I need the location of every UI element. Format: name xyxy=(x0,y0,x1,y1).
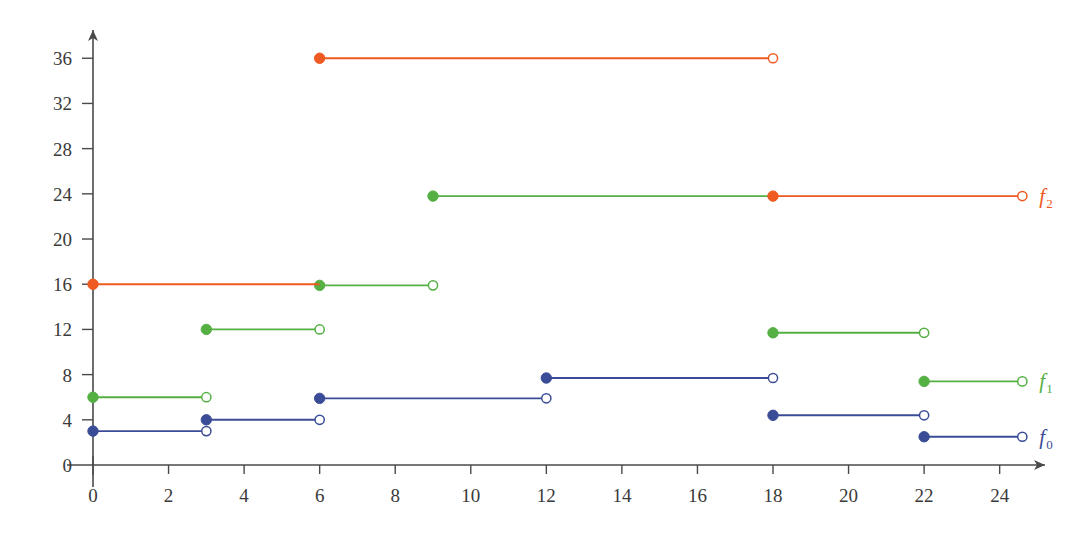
open-point-f_1-4[interactable] xyxy=(920,328,929,337)
y-tick-label-12: 12 xyxy=(53,319,72,340)
closed-point-f_1-5[interactable] xyxy=(919,376,929,386)
closed-point-f_0-0[interactable] xyxy=(88,426,98,436)
y-tick-label-0: 0 xyxy=(63,455,73,476)
series-sublabel-f_1: 1 xyxy=(1046,381,1053,396)
x-tick-label-8: 8 xyxy=(390,485,400,506)
series-label-f_0: f0 xyxy=(1039,425,1052,452)
closed-point-f_2-1[interactable] xyxy=(314,53,324,63)
x-tick-label-18: 18 xyxy=(764,485,783,506)
step-function-chart: 02468101214161820222404812162024283236f0… xyxy=(0,0,1092,547)
x-tick-label-4: 4 xyxy=(239,485,249,506)
closed-point-f_1-0[interactable] xyxy=(88,392,98,402)
closed-point-f_1-4[interactable] xyxy=(768,328,778,338)
open-point-f_1-2[interactable] xyxy=(428,281,437,290)
series-f_2[interactable] xyxy=(88,53,1027,289)
open-point-f_0-3[interactable] xyxy=(768,373,777,382)
y-tick-label-28: 28 xyxy=(53,139,72,160)
x-tick-label-10: 10 xyxy=(461,485,480,506)
open-point-f_0-0[interactable] xyxy=(202,427,211,436)
open-point-f_1-0[interactable] xyxy=(202,393,211,402)
series-sublabel-f_0: 0 xyxy=(1046,437,1053,452)
closed-point-f_0-3[interactable] xyxy=(541,373,551,383)
x-tick-label-14: 14 xyxy=(612,485,632,506)
closed-point-f_0-2[interactable] xyxy=(314,393,324,403)
series-f_0[interactable] xyxy=(88,373,1027,442)
closed-point-f_1-1[interactable] xyxy=(201,324,211,334)
y-tick-label-16: 16 xyxy=(53,274,72,295)
y-tick-label-24: 24 xyxy=(53,184,73,205)
closed-point-f_0-5[interactable] xyxy=(919,432,929,442)
y-tick-label-20: 20 xyxy=(53,229,72,250)
closed-point-f_2-0[interactable] xyxy=(88,279,98,289)
y-tick-label-36: 36 xyxy=(53,48,72,69)
x-tick-label-24: 24 xyxy=(990,485,1010,506)
y-tick-label-8: 8 xyxy=(63,365,73,386)
x-tick-label-20: 20 xyxy=(839,485,858,506)
closed-point-f_0-1[interactable] xyxy=(201,415,211,425)
open-point-f_0-4[interactable] xyxy=(920,411,929,420)
x-tick-label-0: 0 xyxy=(88,485,98,506)
y-tick-label-4: 4 xyxy=(63,410,73,431)
series-label-f_1: f1 xyxy=(1039,369,1052,396)
closed-point-f_1-2[interactable] xyxy=(314,280,324,290)
series-sublabel-f_2: 2 xyxy=(1046,196,1053,211)
x-tick-label-12: 12 xyxy=(537,485,556,506)
series-f_1[interactable] xyxy=(88,191,1027,403)
closed-point-f_0-4[interactable] xyxy=(768,410,778,420)
open-point-f_0-2[interactable] xyxy=(542,394,551,403)
x-tick-label-22: 22 xyxy=(915,485,934,506)
x-tick-label-6: 6 xyxy=(315,485,325,506)
y-tick-label-32: 32 xyxy=(53,93,72,114)
chart-canvas: 02468101214161820222404812162024283236f0… xyxy=(0,0,1092,547)
open-point-f_2-1[interactable] xyxy=(768,54,777,63)
x-tick-label-16: 16 xyxy=(688,485,707,506)
open-point-f_0-5[interactable] xyxy=(1018,432,1027,441)
series-label-f_2: f2 xyxy=(1039,184,1052,211)
open-point-f_1-1[interactable] xyxy=(315,325,324,334)
x-tick-label-2: 2 xyxy=(164,485,174,506)
open-point-f_0-1[interactable] xyxy=(315,415,324,424)
open-point-f_2-2[interactable] xyxy=(1018,191,1027,200)
closed-point-f_2-2[interactable] xyxy=(768,191,778,201)
closed-point-f_1-3[interactable] xyxy=(428,191,438,201)
open-point-f_1-5[interactable] xyxy=(1018,377,1027,386)
